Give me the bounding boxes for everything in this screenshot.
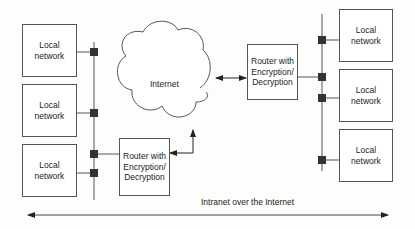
- left-local-network-3: Localnetwork: [22, 144, 77, 197]
- connector-node-icon: [318, 73, 326, 81]
- left-router-cloud-arrow: [170, 130, 193, 153]
- network-label: network: [35, 171, 65, 182]
- right-local-network-3: Localnetwork: [339, 129, 393, 182]
- network-label: network: [35, 51, 65, 62]
- connector-node-icon: [90, 109, 98, 117]
- connector-node-icon: [90, 169, 98, 177]
- network-label: Local: [35, 40, 65, 51]
- internet-cloud-icon: [117, 21, 210, 117]
- router-label: Decryption: [123, 172, 166, 183]
- right-local-network-2: Localnetwork: [339, 69, 393, 122]
- router-label: Encryption/: [251, 67, 294, 78]
- left-local-network-2: Localnetwork: [22, 84, 77, 137]
- router-label: Decryption: [251, 77, 294, 88]
- left-local-network-1: Localnetwork: [22, 24, 77, 77]
- right-router-box: Router withEncryption/Decryption: [247, 44, 298, 100]
- network-label: network: [351, 96, 381, 107]
- router-label: Router with: [251, 56, 294, 67]
- connector-node-icon: [90, 150, 98, 158]
- connector-node-icon: [90, 48, 98, 56]
- network-label: network: [351, 156, 381, 167]
- network-label: network: [35, 111, 65, 122]
- network-label: Local: [351, 85, 381, 96]
- router-label: Router with: [123, 151, 166, 162]
- network-label: Local: [35, 160, 65, 171]
- network-label: Local: [351, 145, 381, 156]
- intranet-caption: Intranet over the Internet: [201, 197, 294, 207]
- connector-node-icon: [318, 94, 326, 102]
- connector-node-icon: [318, 36, 326, 44]
- internet-label: Internet: [150, 79, 179, 89]
- connector-node-icon: [318, 156, 326, 164]
- right-local-network-1: Localnetwork: [339, 9, 393, 62]
- network-label: network: [351, 36, 381, 47]
- router-label: Encryption/: [123, 162, 166, 173]
- network-label: Local: [35, 100, 65, 111]
- left-router-box: Router withEncryption/Decryption: [119, 138, 170, 196]
- network-label: Local: [351, 25, 381, 36]
